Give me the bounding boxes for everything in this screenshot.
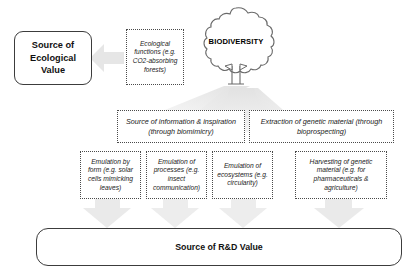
tree-icon bbox=[192, 4, 280, 92]
arrow-emulation-form-to-rd bbox=[83, 198, 131, 228]
node-label-emulation-by-form: Emulation by form (e.g. solar cells mimi… bbox=[84, 158, 137, 193]
node-label-ecological-value: Source of Ecological Value bbox=[30, 39, 76, 77]
arrow-to-ecological-value bbox=[90, 38, 124, 78]
node-source-of-information-inspiration: Source of information & inspiration (thr… bbox=[117, 110, 245, 143]
node-label-rd-value: Source of R&D Value bbox=[175, 242, 263, 252]
node-label-genetic-extraction: Extraction of genetic material (through … bbox=[253, 117, 390, 136]
diagram-canvas: BIODIVERSITY Source of Ecological Value … bbox=[0, 0, 410, 273]
arrow-harvesting-to-rd bbox=[314, 198, 364, 228]
biodiversity-label: BIODIVERSITY bbox=[199, 37, 273, 46]
node-extraction-of-genetic-material: Extraction of genetic material (through … bbox=[249, 110, 394, 143]
node-label-emulation-of-processes: Emulation of processes (e.g. insect comm… bbox=[150, 158, 203, 193]
node-harvesting-genetic-material: Harvesting of genetic material (e.g. for… bbox=[295, 151, 387, 199]
node-label-ecological-functions: Ecological functions (e.g. CO2-absorbing… bbox=[130, 40, 180, 75]
node-emulation-of-processes: Emulation of processes (e.g. insect comm… bbox=[146, 151, 207, 199]
arrow-emulation-ecosystems-to-rd bbox=[219, 198, 267, 228]
node-label-emulation-of-ecosystems: Emulation of ecosystems (e.g. circularit… bbox=[216, 162, 269, 188]
node-emulation-of-ecosystems: Emulation of ecosystems (e.g. circularit… bbox=[212, 151, 273, 199]
node-source-of-ecological-value: Source of Ecological Value bbox=[14, 31, 92, 85]
node-source-of-rd-value: Source of R&D Value bbox=[36, 228, 402, 266]
node-label-information-inspiration: Source of information & inspiration (thr… bbox=[121, 117, 241, 136]
node-emulation-by-form: Emulation by form (e.g. solar cells mimi… bbox=[80, 151, 141, 199]
arrow-emulation-processes-to-rd bbox=[151, 198, 199, 228]
node-label-harvesting-genetic-material: Harvesting of genetic material (e.g. for… bbox=[299, 158, 383, 193]
node-ecological-functions: Ecological functions (e.g. CO2-absorbing… bbox=[126, 29, 184, 85]
